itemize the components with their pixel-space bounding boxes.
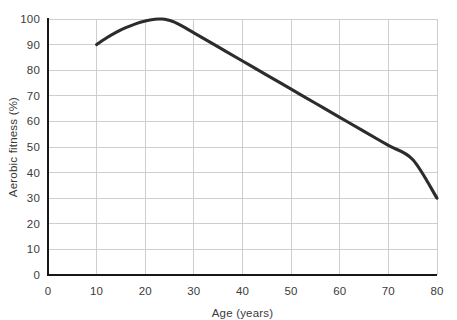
y-tick-label: 40	[27, 167, 40, 179]
y-tick-label: 100	[20, 13, 40, 25]
y-axis-title: Aerobic fitness (%)	[7, 97, 19, 197]
x-tick-label: 10	[90, 285, 103, 297]
y-tick-label: 30	[27, 192, 40, 204]
y-tick-label: 50	[27, 141, 40, 153]
y-tick-label: 90	[27, 39, 40, 51]
x-tick-label: 20	[139, 285, 152, 297]
y-tick-label: 10	[27, 243, 40, 255]
x-tick-label: 80	[430, 285, 443, 297]
y-tick-label: 20	[27, 218, 40, 230]
x-tick-label: 60	[333, 285, 346, 297]
x-axis-title: Age (years)	[212, 307, 274, 319]
y-tick-label: 0	[33, 269, 40, 281]
aerobic-fitness-chart: 0102030405060708090100 01020304050607080…	[0, 0, 457, 320]
y-tick-label: 80	[27, 64, 40, 76]
x-tick-label: 70	[382, 285, 395, 297]
chart-canvas: 0102030405060708090100 01020304050607080…	[0, 0, 457, 320]
x-tick-label: 0	[45, 285, 52, 297]
y-tick-label: 60	[27, 115, 40, 127]
x-tick-label: 30	[187, 285, 200, 297]
y-tick-label: 70	[27, 90, 40, 102]
x-tick-label: 40	[236, 285, 249, 297]
x-tick-label: 50	[285, 285, 298, 297]
